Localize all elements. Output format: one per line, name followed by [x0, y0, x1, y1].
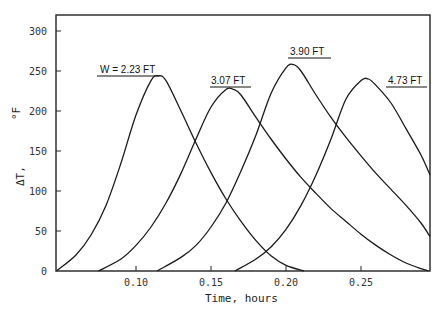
- series-label-4-73ft: 4.73 FT: [388, 75, 422, 86]
- x-tick-label: 0.15: [199, 277, 223, 288]
- x-tick-label: 0.10: [124, 277, 148, 288]
- y-tick-label: 0: [41, 266, 47, 277]
- y-tick-label: 250: [29, 66, 47, 77]
- x-axis-title: Time, hours: [205, 292, 278, 305]
- plot-curves: [57, 64, 431, 271]
- y-axis-title: ΔT,: [14, 166, 27, 186]
- x-tick-label: 0.25: [349, 277, 373, 288]
- series-label-3-90ft: 3.90 FT: [290, 46, 324, 57]
- x-tick-label: 0.20: [274, 277, 298, 288]
- series-curve-3: [235, 78, 430, 271]
- series-label-3-07ft: 3.07 FT: [211, 75, 245, 86]
- plot-frame: [56, 15, 430, 271]
- y-tick-label: 200: [29, 106, 47, 117]
- y-tick-label: 150: [29, 146, 47, 157]
- series-label-2-23ft: W = 2.23 FT: [100, 64, 155, 75]
- y-tick-label: 300: [29, 26, 47, 37]
- y-tick-label: 100: [29, 186, 47, 197]
- y-axis-unit: °F: [10, 107, 23, 120]
- y-tick-label: 50: [35, 226, 47, 237]
- chart: 050100150200250300 0.100.150.200.25 W = …: [0, 0, 443, 316]
